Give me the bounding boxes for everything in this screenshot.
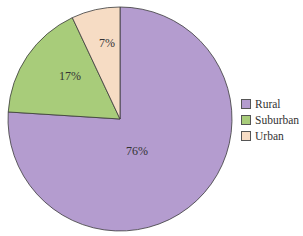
rural-swatch-icon: [241, 99, 251, 109]
legend-label: Rural: [255, 98, 281, 110]
slice-label-rural: 76%: [126, 144, 148, 158]
slice-label-suburban: 17%: [59, 69, 81, 83]
slice-label-urban: 7%: [99, 36, 115, 50]
legend: Rural Suburban Urban: [241, 96, 299, 144]
legend-label: Suburban: [255, 114, 299, 126]
legend-item-urban: Urban: [241, 128, 299, 144]
suburban-swatch-icon: [241, 115, 251, 125]
legend-item-rural: Rural: [241, 96, 299, 112]
urban-swatch-icon: [241, 131, 251, 141]
legend-label: Urban: [255, 130, 284, 142]
legend-item-suburban: Suburban: [241, 112, 299, 128]
